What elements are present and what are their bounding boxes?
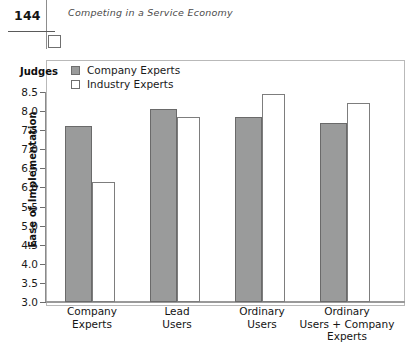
y-tick-label: 5.0 <box>12 221 38 231</box>
page-number: 144 <box>14 8 41 23</box>
running-head: Competing in a Service Economy <box>68 7 233 18</box>
header-vertical-rule <box>46 0 47 49</box>
marker-box-icon <box>48 35 61 48</box>
x-category-label: CompanyExperts <box>44 305 140 330</box>
x-category-label-line: Experts <box>44 318 140 331</box>
x-category-label-line: Users + Company <box>299 318 395 331</box>
bar-company-experts[interactable] <box>320 123 347 302</box>
x-category-label-line: Lead <box>129 305 225 318</box>
bar-industry-experts[interactable] <box>92 182 115 302</box>
y-tick-label: 5.5 <box>12 202 38 212</box>
x-category-label-line: Users <box>214 318 310 331</box>
bar-company-experts[interactable] <box>150 109 177 302</box>
x-category-label-line: Company <box>44 305 140 318</box>
y-tick-label: 4.5 <box>12 240 38 250</box>
x-category-label-line: Experts <box>299 330 395 343</box>
bar-company-experts[interactable] <box>65 126 92 302</box>
bar-company-experts[interactable] <box>235 117 262 302</box>
page-header: 144 Competing in a Service Economy <box>0 0 411 56</box>
x-axis-category-labels: CompanyExpertsLeadUsersOrdinaryUsersOrdi… <box>46 305 405 348</box>
x-category-label-line: Ordinary <box>299 305 395 318</box>
y-tick-label: 8.0 <box>12 106 38 116</box>
x-category-label-line: Users <box>129 318 225 331</box>
x-category-label: OrdinaryUsers + CompanyExperts <box>299 305 395 343</box>
x-category-label-line: Ordinary <box>214 305 310 318</box>
bar-industry-experts[interactable] <box>262 94 285 302</box>
y-tick-label: 6.0 <box>12 182 38 192</box>
y-tick-label: 7.5 <box>12 125 38 135</box>
y-tick-label: 4.0 <box>12 259 38 269</box>
header-horizontal-rule <box>8 31 55 32</box>
x-category-label: LeadUsers <box>129 305 225 330</box>
bar-industry-experts[interactable] <box>347 103 370 302</box>
y-axis-tick-labels: 8.58.07.57.06.56.05.55.04.54.03.53.0 <box>8 56 38 348</box>
y-tick-label: 6.5 <box>12 163 38 173</box>
bar-industry-experts[interactable] <box>177 117 200 302</box>
y-tick-label: 7.0 <box>12 144 38 154</box>
bar-chart-figure: Ease of Implementation 8.58.07.57.06.56.… <box>0 56 411 348</box>
y-tick-label: 3.5 <box>12 278 38 288</box>
x-category-label: OrdinaryUsers <box>214 305 310 330</box>
y-tick-label: 3.0 <box>12 297 38 307</box>
